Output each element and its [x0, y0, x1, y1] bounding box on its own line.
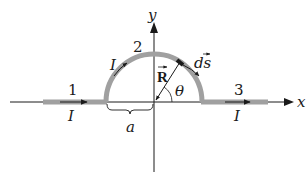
- ds-label: ds: [194, 54, 212, 72]
- y-axis-label: y: [147, 6, 157, 24]
- angle-arc: [164, 87, 172, 102]
- y-axis: [150, 22, 158, 172]
- segment-1-current-label: I: [67, 107, 75, 125]
- segment-3-current-label: I: [233, 107, 241, 125]
- x-axis-arrow-icon: [284, 98, 294, 106]
- segment-1-label: 1: [68, 81, 78, 99]
- radius-brace: [107, 104, 153, 114]
- segment-2-label: 2: [133, 38, 143, 56]
- svg-text:ds: ds: [194, 54, 212, 72]
- r-vector-label: R: [157, 67, 168, 85]
- segment-2-current-label: I: [109, 56, 117, 74]
- diagram-canvas: x y 1 I 2 I 3 I R ds θ: [0, 0, 308, 182]
- theta-label: θ: [175, 82, 184, 100]
- x-axis-label: x: [297, 93, 306, 111]
- radius-label: a: [126, 118, 135, 136]
- segment-3-label: 3: [234, 81, 244, 99]
- svg-text:R: R: [157, 69, 168, 85]
